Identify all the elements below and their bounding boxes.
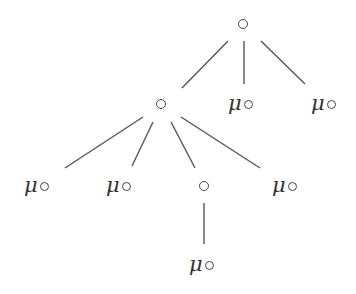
circle-operator-icon xyxy=(205,261,214,270)
mu-symbol: μ xyxy=(228,93,242,113)
tree-edge xyxy=(132,122,153,166)
tree-edges xyxy=(0,0,356,294)
mu-symbol: μ xyxy=(24,175,38,195)
mu-symbol: μ xyxy=(272,175,286,195)
tree-edge xyxy=(182,41,228,88)
circle-operator-icon xyxy=(288,182,297,191)
circle-operator-icon xyxy=(244,100,253,109)
root-node-circle-icon xyxy=(238,19,248,29)
tree-diagram: μ μ μ μ μ μ xyxy=(0,0,356,294)
tree-edge xyxy=(181,117,260,168)
internal-node-circle-icon xyxy=(156,99,166,109)
leaf-node-n2: μ xyxy=(228,93,253,113)
tree-edge xyxy=(65,117,143,168)
mu-symbol: μ xyxy=(311,93,325,113)
leaf-node-n5: μ xyxy=(106,175,131,195)
tree-edge xyxy=(171,122,195,168)
circle-operator-icon xyxy=(40,182,49,191)
leaf-node-n8: μ xyxy=(189,254,214,274)
mu-symbol: μ xyxy=(106,175,120,195)
internal-node-circle-icon xyxy=(199,181,209,191)
leaf-node-n4: μ xyxy=(24,175,49,195)
mu-symbol: μ xyxy=(189,254,203,274)
circle-operator-icon xyxy=(122,182,131,191)
leaf-node-n7: μ xyxy=(272,175,297,195)
circle-operator-icon xyxy=(327,100,336,109)
tree-edge xyxy=(261,41,305,84)
leaf-node-n3: μ xyxy=(311,93,336,113)
